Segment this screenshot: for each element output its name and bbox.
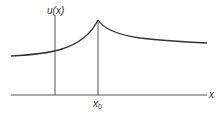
x0-label: x0 xyxy=(92,98,102,110)
x0-label-sub: 0 xyxy=(98,103,102,110)
curve-right-branch xyxy=(98,20,207,43)
axis-label-x: x xyxy=(208,89,215,100)
function-label: u(x) xyxy=(47,5,64,16)
diagram: u(x) x x0 xyxy=(0,0,222,117)
